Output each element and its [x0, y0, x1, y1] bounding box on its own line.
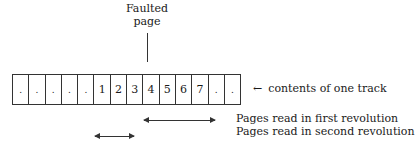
arrow-left-icon: ←	[253, 82, 262, 95]
faulted-page-label: Faulted page	[117, 2, 177, 28]
track-cell: 2	[111, 75, 127, 104]
track-cell: .	[13, 75, 29, 104]
track-cell-faulted: 4	[143, 75, 159, 104]
track-cell: 3	[127, 75, 143, 104]
track-label-text: contents of one track	[268, 82, 386, 95]
second-revolution-arrow-icon	[95, 136, 134, 137]
track: . . . . . 1 2 3 4 5 6 7 . .	[12, 74, 241, 105]
track-cell: .	[209, 75, 225, 104]
track-cell: 1	[94, 75, 110, 104]
track-cell: 7	[192, 75, 208, 104]
first-revolution-arrow-icon	[144, 120, 215, 121]
legend: Pages read in first revolution Pages rea…	[236, 112, 415, 138]
track-label: ←contents of one track	[253, 82, 387, 95]
track-cell: .	[46, 75, 62, 104]
track-cell: .	[62, 75, 78, 104]
faulted-page-pointer-line	[147, 33, 148, 62]
faulted-label-line1: Faulted	[117, 2, 177, 15]
track-cell: .	[78, 75, 94, 104]
track-cell: .	[29, 75, 45, 104]
legend-second-revolution: Pages read in second revolution	[236, 125, 415, 138]
track-cell: .	[225, 75, 241, 104]
track-cell: 6	[176, 75, 192, 104]
track-cell: 5	[160, 75, 176, 104]
legend-first-revolution: Pages read in first revolution	[236, 112, 415, 125]
faulted-label-line2: page	[117, 15, 177, 28]
